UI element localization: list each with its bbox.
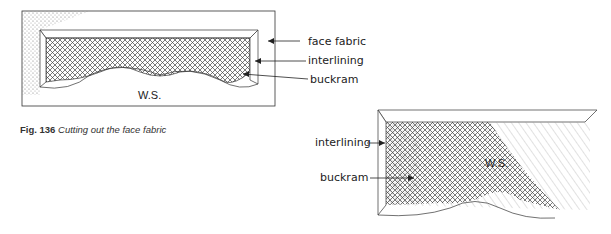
figure-caption: Fig. 136 Cutting out the face fabric	[20, 124, 166, 135]
caption-text: Cutting out the face fabric	[58, 124, 166, 135]
figure-2: W.S. interlining buckram	[315, 110, 597, 218]
fig2-label-buckram: buckram	[320, 171, 368, 184]
figure-1: W.S. face fabric interlining buckram	[22, 11, 366, 106]
fig1-ws-label: W.S.	[138, 89, 161, 101]
label-buckram: buckram	[310, 73, 358, 86]
caption-number: Fig. 136	[20, 124, 55, 135]
label-interlining: interlining	[308, 54, 364, 67]
fig2-label-interlining: interlining	[315, 136, 371, 149]
fig2-ws-label: W.S.	[485, 157, 508, 169]
illustration: W.S. face fabric interlining buckram W.S…	[0, 0, 611, 234]
label-face-fabric: face fabric	[308, 35, 366, 48]
